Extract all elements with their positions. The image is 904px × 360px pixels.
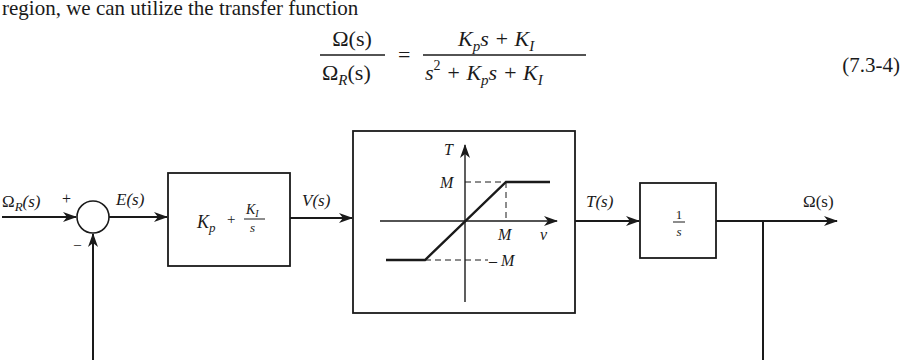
- integrator-denominator: s: [676, 224, 681, 239]
- lhs-numerator: Ω(s): [332, 26, 372, 51]
- saturation-output-label: T(s): [586, 192, 614, 211]
- minus-sign: –: [73, 237, 82, 252]
- integrator-numerator: 1: [676, 207, 683, 222]
- equals-sign: =: [398, 42, 410, 67]
- block-diagram: ΩR(s) + – E(s) Kp + KI s V(s) T v: [2, 131, 837, 360]
- lhs-denominator: ΩR(s): [322, 60, 371, 88]
- plus-sign: +: [62, 190, 71, 207]
- controller-kp: Kp: [196, 212, 216, 235]
- rhs-numerator: Kps + KI: [457, 26, 535, 54]
- upper-level-label: M: [439, 174, 455, 191]
- output-label: Ω(s): [803, 192, 834, 211]
- controller-ki: KI: [245, 202, 259, 219]
- controller-output-label: V(s): [302, 191, 331, 210]
- v-axis-label: v: [540, 226, 548, 243]
- summing-junction: [77, 201, 109, 233]
- error-label: E(s): [115, 190, 145, 209]
- lower-level-label: – M: [488, 252, 516, 269]
- x-break-label: M: [497, 226, 513, 243]
- transfer-function-equation: Ω(s) ΩR(s) = Kps + KI s2 + Kps + KI (7.3…: [320, 26, 900, 88]
- rhs-denominator: s2 + Kps + KI: [425, 58, 544, 88]
- equation-number: (7.3-4): [842, 53, 900, 77]
- input-label: ΩR(s): [2, 192, 41, 214]
- equation-and-block-diagram: Ω(s) ΩR(s) = Kps + KI s2 + Kps + KI (7.3…: [0, 0, 904, 360]
- controller-s: s: [250, 220, 255, 235]
- saturation-characteristic-plot: T v M M – M: [380, 141, 557, 302]
- controller-plus: +: [227, 211, 235, 227]
- t-axis-label: T: [444, 141, 454, 158]
